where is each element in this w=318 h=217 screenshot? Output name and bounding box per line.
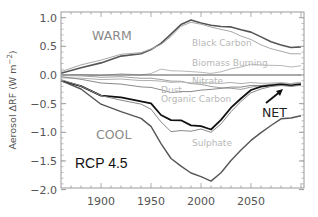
x-tick-label: 1900 xyxy=(87,195,115,208)
aerosol-rf-chart: 1.00.50.0−0.5−1.0−1.5−2.0190019502000205… xyxy=(0,0,318,217)
y-tick-label: −2.0 xyxy=(30,184,57,197)
x-tick-label: 2050 xyxy=(237,195,265,208)
y-tick-label: 0.0 xyxy=(40,69,58,82)
y-tick-label: −0.5 xyxy=(30,98,57,111)
x-tick-label: 1950 xyxy=(137,195,165,208)
label-biomass-burning: Biomass Burning xyxy=(192,58,268,68)
scenario-label: RCP 4.5 xyxy=(75,155,128,171)
annotation-cool: COOL xyxy=(96,127,131,142)
label-nitrate: Nitrate xyxy=(192,76,224,86)
annotation-net: NET xyxy=(262,105,287,120)
y-axis-title: Aerosol ΔRF (W m−2) xyxy=(6,50,18,149)
label-black-carbon: Black Carbon xyxy=(192,38,252,48)
y-tick-label: −1.0 xyxy=(30,126,57,139)
y-tick-label: 0.5 xyxy=(40,40,58,53)
x-tick-label: 2000 xyxy=(187,195,215,208)
annotation-warm: WARM xyxy=(92,28,132,43)
y-tick-label: −1.5 xyxy=(30,155,57,168)
label-organic-carbon: Organic Carbon xyxy=(161,94,231,104)
y-tick-label: 1.0 xyxy=(40,12,58,25)
label-sulphate: Sulphate xyxy=(192,138,232,148)
